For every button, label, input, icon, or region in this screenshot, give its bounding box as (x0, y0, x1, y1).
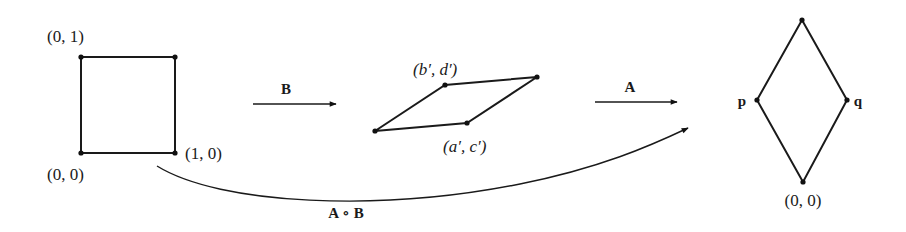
parallelogram-vertex (464, 120, 469, 125)
composition-arrow-curve (157, 128, 688, 201)
label-q: q (854, 93, 863, 109)
label-1-0: (1, 0) (185, 144, 222, 163)
composition-arrow: A ∘ B (157, 128, 688, 221)
linear-map-diagram: (0, 1) (0, 0) (1, 0) B (b′, d′) (a′, c′)… (0, 0, 906, 232)
label-a-c-prime: (a′, c′) (443, 137, 487, 156)
square-outline (81, 57, 175, 153)
diamond-vertex (799, 17, 804, 22)
square-vertex (172, 150, 177, 155)
square-vertex (78, 54, 83, 59)
unit-square: (0, 1) (0, 0) (1, 0) (47, 27, 222, 184)
parallelogram: (b′, d′) (a′, c′) (372, 60, 539, 156)
parallelogram-vertex (534, 74, 539, 79)
label-origin-square: (0, 0) (47, 165, 84, 184)
diamond-outline (757, 20, 847, 182)
square-vertex (78, 150, 83, 155)
parallelogram-vertex (372, 128, 377, 133)
parallelogram-vertex (442, 82, 447, 87)
label-origin-diamond: (0, 0) (785, 191, 822, 210)
diamond-vertex (800, 179, 805, 184)
parallelogram-outline (375, 77, 537, 131)
diamond-vertex (754, 97, 759, 102)
diamond: p q (0, 0) (738, 17, 863, 210)
diamond-vertex (844, 97, 849, 102)
square-vertex (172, 54, 177, 59)
arrow-b: B (253, 81, 336, 104)
arrow-b-label: B (281, 81, 291, 97)
composition-arrow-label: A ∘ B (328, 205, 363, 221)
arrow-a-label: A (625, 79, 636, 95)
arrow-a: A (595, 79, 677, 102)
label-p: p (738, 93, 746, 109)
label-b-d-prime: (b′, d′) (413, 60, 458, 79)
label-0-1: (0, 1) (47, 27, 84, 46)
